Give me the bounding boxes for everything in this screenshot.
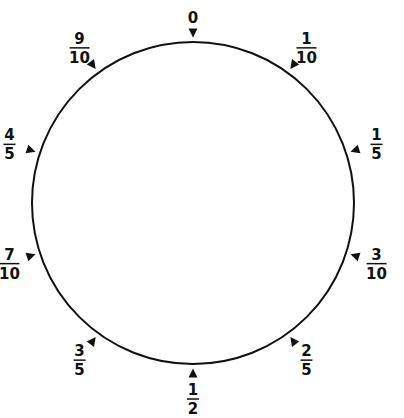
triangle-marker-icon <box>189 369 198 378</box>
fraction-denominator: 10 <box>366 265 387 283</box>
fraction-numerator: 1 <box>188 381 198 399</box>
triangle-marker-icon <box>87 337 96 347</box>
mark-3-over-10: 310 <box>350 246 386 283</box>
mark-2-over-5: 25 <box>290 337 312 379</box>
fraction-numerator: 1 <box>371 126 381 144</box>
fraction-denominator: 5 <box>301 361 311 379</box>
fraction-numerator: 3 <box>371 246 381 264</box>
marks-layer: 01101531025123571045910 <box>0 9 387 418</box>
triangle-marker-icon <box>26 253 36 262</box>
fraction-numerator: 4 <box>4 126 14 144</box>
fraction-numerator: 1 <box>301 30 311 48</box>
fraction-denominator: 10 <box>0 265 20 283</box>
fraction-denominator: 10 <box>69 49 90 67</box>
fraction-numerator: 7 <box>4 246 14 264</box>
mark-1-over-5: 15 <box>350 126 382 163</box>
triangle-marker-icon <box>350 145 360 154</box>
mark-1-over-10: 110 <box>290 30 317 69</box>
mark-9-over-10: 910 <box>69 30 96 69</box>
mark-0: 0 <box>188 9 198 37</box>
fraction-numerator: 3 <box>74 342 84 360</box>
mark-3-over-5: 35 <box>74 337 96 379</box>
triangle-marker-icon <box>26 145 36 154</box>
fraction-denominator: 10 <box>296 49 317 67</box>
fraction-label: 0 <box>188 9 198 27</box>
triangle-marker-icon <box>290 337 299 347</box>
circle-outline <box>32 42 354 364</box>
fraction-circle-diagram: 01101531025123571045910 <box>0 0 404 418</box>
triangle-marker-icon <box>350 253 360 262</box>
mark-7-over-10: 710 <box>0 246 36 283</box>
fraction-numerator: 2 <box>301 342 311 360</box>
fraction-denominator: 2 <box>188 400 198 418</box>
triangle-marker-icon <box>189 28 198 37</box>
fraction-denominator: 5 <box>371 145 381 163</box>
mark-4-over-5: 45 <box>3 126 35 163</box>
fraction-denominator: 5 <box>4 145 14 163</box>
mark-1-over-2: 12 <box>187 369 199 418</box>
fraction-numerator: 9 <box>74 30 84 48</box>
fraction-denominator: 5 <box>74 361 84 379</box>
